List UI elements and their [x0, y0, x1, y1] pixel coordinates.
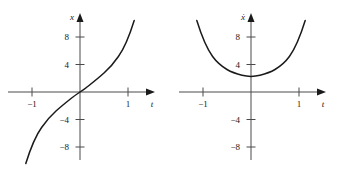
y-axis-arrow-left: [77, 13, 84, 22]
x-axis-arrow-right: [317, 89, 326, 96]
y-tick-label--8-left: −8: [59, 142, 69, 152]
y-tick-label--4-left: −4: [59, 115, 69, 125]
x-tick-label--1-right: −1: [198, 99, 208, 109]
y-tick-label--4-right: −4: [230, 115, 240, 125]
y-axis-arrow-right: [248, 13, 255, 22]
x-axis-label-left: t: [151, 99, 154, 109]
x-tick-label-1-right: 1: [297, 99, 302, 109]
x-axis-label-right: t: [322, 99, 325, 109]
plot-panel-left: x t 8 4 −4 −8 −1 1: [0, 0, 171, 172]
x-axis-arrow-left: [146, 89, 155, 96]
y-axis-label-left: x: [69, 12, 74, 22]
y-tick-label-4-right: 4: [236, 60, 241, 70]
y-tick-label-4-left: 4: [65, 60, 70, 70]
y-tick-label--8-right: −8: [230, 142, 240, 152]
two-panel-figure: x t 8 4 −4 −8 −1 1: [0, 0, 342, 172]
x-tick-label-1-left: 1: [126, 99, 131, 109]
y-tick-label-8-left: 8: [65, 32, 70, 42]
y-axis-label-right: ẋ: [240, 12, 245, 22]
y-tick-label-8-right: 8: [236, 32, 241, 42]
plot-panel-right: ẋ t 8 4 −4 −8 −1 1: [171, 0, 342, 172]
x-tick-label--1-left: −1: [27, 99, 37, 109]
